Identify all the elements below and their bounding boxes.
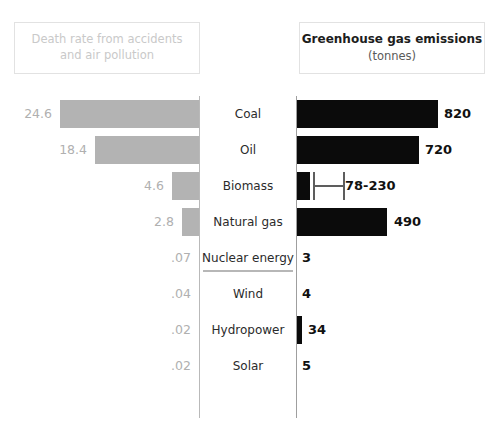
chart-row: .07Nuclear energy3 <box>0 240 497 276</box>
right-bar-biomass <box>297 172 310 200</box>
left-value-label: .02 <box>171 312 191 348</box>
right-value-label: 34 <box>308 312 326 348</box>
right-panel-subtitle: (tonnes) <box>368 49 416 65</box>
category-label-coal: Coal <box>200 96 296 132</box>
right-value-label: 820 <box>444 96 471 132</box>
chart-row: 4.6Biomass78-230 <box>0 168 497 204</box>
category-label-oil: Oil <box>200 132 296 168</box>
category-label-biomass: Biomass <box>200 168 296 204</box>
left-value-label: .02 <box>171 348 191 384</box>
category-label-natural-gas: Natural gas <box>200 204 296 240</box>
left-value-label: 18.4 <box>59 132 87 168</box>
chart-row: 2.8Natural gas490 <box>0 204 497 240</box>
left-bar-coal <box>60 100 199 128</box>
left-value-label: .04 <box>171 276 191 312</box>
left-value-label: .07 <box>171 240 191 276</box>
right-bar-hydropower <box>297 316 302 344</box>
right-value-label: 3 <box>302 240 311 276</box>
range-marker <box>313 168 345 204</box>
left-bar-natural-gas <box>182 208 199 236</box>
right-bar-coal <box>297 100 438 128</box>
right-value-label: 4 <box>302 276 311 312</box>
right-bar-oil <box>297 136 419 164</box>
right-bar-natural-gas <box>297 208 387 236</box>
chart-row: .02Solar5 <box>0 348 497 384</box>
right-value-label: 490 <box>394 204 421 240</box>
left-panel-header: Death rate from accidents and air pollut… <box>14 22 200 74</box>
chart-row: 18.4Oil720 <box>0 132 497 168</box>
category-label-hydropower: Hydropower <box>200 312 296 348</box>
category-label-solar: Solar <box>200 348 296 384</box>
range-cap-low <box>313 172 315 200</box>
category-label-wind: Wind <box>200 276 296 312</box>
left-value-label: 2.8 <box>154 204 174 240</box>
right-value-label: 78-230 <box>345 168 396 204</box>
chart-row: .04Wind4 <box>0 276 497 312</box>
comparison-chart: Death rate from accidents and air pollut… <box>0 0 497 423</box>
right-panel-title: Greenhouse gas emissions <box>302 31 482 47</box>
left-panel-title-line1: Death rate from accidents <box>32 32 183 48</box>
left-value-label: 24.6 <box>24 96 52 132</box>
chart-row: .02Hydropower34 <box>0 312 497 348</box>
right-value-label: 5 <box>302 348 311 384</box>
right-panel-header: Greenhouse gas emissions (tonnes) <box>299 22 485 74</box>
left-panel-title-line2: and air pollution <box>60 48 154 64</box>
category-underline <box>203 270 293 272</box>
chart-row: 24.6Coal820 <box>0 96 497 132</box>
left-value-label: 4.6 <box>144 168 164 204</box>
left-bar-biomass <box>172 172 199 200</box>
range-connector <box>313 185 345 187</box>
right-value-label: 720 <box>425 132 452 168</box>
left-bar-oil <box>95 136 199 164</box>
